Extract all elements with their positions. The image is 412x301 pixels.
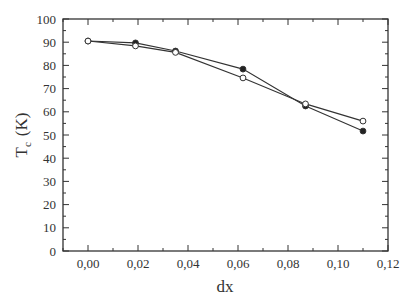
x-tick-label: 0,04 — [177, 256, 200, 271]
x-axis-title: dx — [217, 277, 235, 296]
svg-text:Tc(K): Tc(K) — [12, 113, 33, 158]
y-tick-label: 10 — [43, 220, 56, 235]
filled-circle-marker — [360, 128, 366, 134]
plot-area-border — [63, 19, 388, 251]
plot-frame — [63, 19, 388, 251]
x-tick-label: 0,00 — [77, 256, 100, 271]
y-axis-title-sub: c — [21, 142, 33, 147]
open-circle-marker — [173, 50, 179, 56]
y-tick-label: 100 — [37, 12, 57, 27]
x-tick-label: 0,10 — [327, 256, 350, 271]
y-tick-label: 50 — [43, 128, 56, 143]
series-open-circle — [85, 38, 366, 124]
y-tick-label: 70 — [43, 81, 56, 96]
y-tick-label: 60 — [43, 104, 56, 119]
series-layer — [85, 38, 366, 134]
x-tick-label: 0,12 — [377, 256, 400, 271]
series-filled-circle — [85, 38, 366, 134]
x-axis-ticks: 0,000,020,040,060,080,100,12 — [63, 19, 399, 271]
y-tick-label: 90 — [43, 35, 56, 50]
open-circle-marker — [240, 75, 246, 81]
y-axis-title-unit: (K) — [12, 113, 31, 137]
open-circle-marker — [85, 38, 91, 44]
y-tick-label: 80 — [43, 58, 56, 73]
y-tick-label: 30 — [43, 174, 56, 189]
x-tick-label: 0,06 — [227, 256, 250, 271]
y-tick-label: 40 — [43, 151, 56, 166]
filled-circle-marker — [240, 66, 246, 72]
open-circle-marker — [303, 101, 309, 107]
y-tick-label: 0 — [50, 244, 57, 259]
y-axis-title: Tc(K) — [12, 113, 33, 158]
tc-vs-dx-chart: 0,000,020,040,060,080,100,12 01020304050… — [0, 0, 412, 301]
y-axis-title-main: T — [12, 146, 31, 157]
x-tick-label: 0,08 — [277, 256, 300, 271]
open-circle-marker — [360, 118, 366, 124]
open-circle-marker — [133, 43, 139, 49]
y-tick-label: 20 — [43, 197, 56, 212]
y-axis-ticks: 0102030405060708090100 — [37, 12, 389, 259]
series-line — [88, 41, 363, 131]
series-line — [88, 41, 363, 121]
x-tick-label: 0,02 — [127, 256, 150, 271]
